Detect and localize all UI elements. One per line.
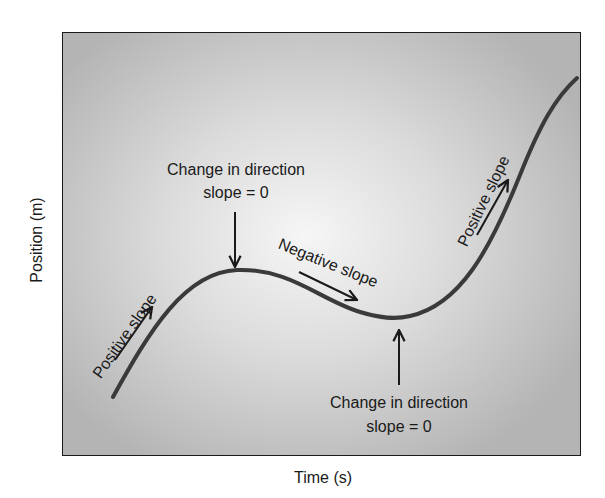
annotation-min-line1: Change in direction: [330, 395, 468, 411]
x-axis-label: Time (s): [294, 470, 352, 486]
y-axis-label: Position (m): [29, 197, 45, 282]
annotation-max-line2: slope = 0: [203, 185, 268, 201]
annotation-min-line2: slope = 0: [366, 419, 431, 435]
annotation-max-line1: Change in direction: [167, 162, 305, 178]
position-curve: [113, 78, 577, 397]
